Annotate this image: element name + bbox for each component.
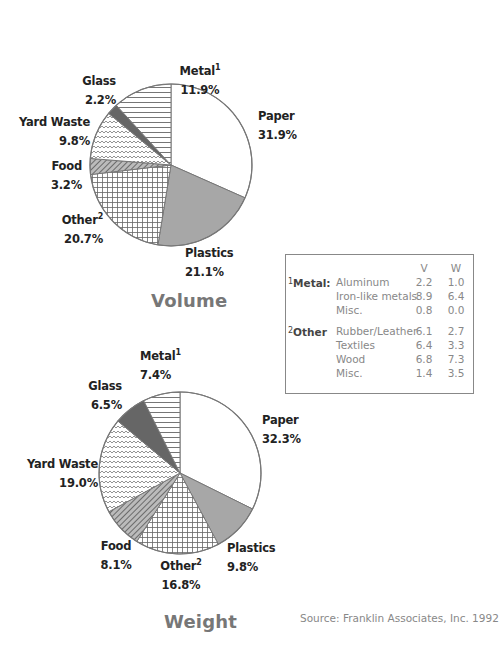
volume-value-yard-waste: 9.8% <box>59 134 90 148</box>
table-row: 1Metal: Aluminum 2.2 1.0 <box>286 275 473 289</box>
volume-value-glass: 2.2% <box>85 93 116 107</box>
weight-label-paper: Paper 32.3% <box>262 411 301 449</box>
weight-label-food: Food 8.1% <box>96 537 136 575</box>
table-row: Wood 6.8 7.3 <box>286 352 473 366</box>
weight-value-plastics: 9.8% <box>227 560 258 574</box>
weight-value-food: 8.1% <box>100 558 131 572</box>
weight-value-glass: 6.5% <box>91 398 122 412</box>
volume-label-paper: Paper 31.9% <box>258 107 297 145</box>
table-header-row: V W <box>286 261 473 275</box>
table-row: Misc. 0.8 0.0 <box>286 303 473 317</box>
figure: Metal1 11.9% Glass 2.2% Yard Waste 9.8% … <box>0 0 503 653</box>
volume-title: Volume <box>151 290 227 311</box>
weight-value-metal: 7.4% <box>140 368 171 382</box>
group-label-metal: 1Metal: <box>288 275 331 290</box>
volume-value-other: 20.7% <box>64 232 103 246</box>
source-caption: Source: Franklin Associates, Inc. 1992 <box>300 612 499 624</box>
group-label-other: 2Other <box>288 324 327 339</box>
weight-value-paper: 32.3% <box>262 432 301 446</box>
volume-label-glass: Glass 2.2% <box>60 72 116 110</box>
volume-value-plastics: 21.1% <box>185 265 224 279</box>
table-row: Textiles 6.4 3.3 <box>286 338 473 352</box>
breakdown-table: V W 1Metal: Aluminum 2.2 1.0 Iron-like m… <box>285 254 474 394</box>
table-row: 2Other Rubber/Leather 6.1 2.7 <box>286 324 473 338</box>
volume-value-metal: 11.9% <box>181 83 220 97</box>
weight-label-yard-waste: Yard Waste 19.0% <box>18 455 98 493</box>
weight-title: Weight <box>164 611 237 632</box>
volume-value-food: 3.2% <box>51 178 82 192</box>
weight-label-other: Other2 16.8% <box>154 557 208 595</box>
weight-label-glass: Glass 6.5% <box>80 377 122 415</box>
volume-label-food: Food 3.2% <box>20 157 82 195</box>
weight-value-yard-waste: 19.0% <box>59 476 98 490</box>
weight-pie <box>99 392 261 554</box>
column-header-v: V <box>414 261 434 275</box>
volume-value-paper: 31.9% <box>258 128 297 142</box>
weight-value-other: 16.8% <box>162 578 201 592</box>
table-row: Iron-like metals 8.9 6.4 <box>286 289 473 303</box>
volume-label-yard-waste: Yard Waste 9.8% <box>10 113 90 151</box>
column-header-w: W <box>446 261 466 275</box>
table-row: Misc. 1.4 3.5 <box>286 366 473 380</box>
volume-label-metal: Metal1 11.9% <box>170 62 230 100</box>
weight-label-metal: Metal1 7.4% <box>140 347 181 385</box>
volume-label-plastics: Plastics 21.1% <box>185 244 233 282</box>
weight-label-plastics: Plastics 9.8% <box>227 539 275 577</box>
volume-label-other: Other2 20.7% <box>30 211 103 249</box>
